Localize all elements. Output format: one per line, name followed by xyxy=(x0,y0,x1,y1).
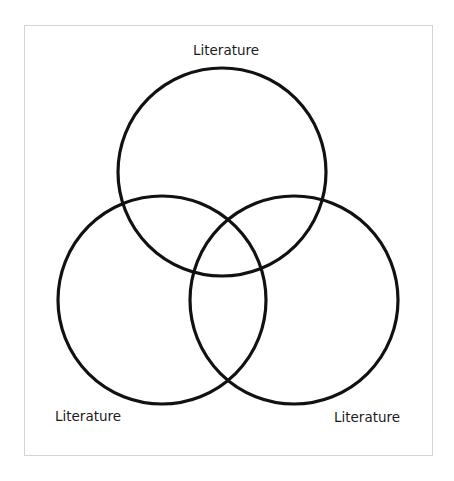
label-left: Literature xyxy=(55,408,121,424)
label-right: Literature xyxy=(334,409,400,425)
circle-right xyxy=(190,196,398,404)
label-top: Literature xyxy=(193,42,259,58)
circle-left xyxy=(58,196,266,404)
circle-top xyxy=(118,68,326,276)
